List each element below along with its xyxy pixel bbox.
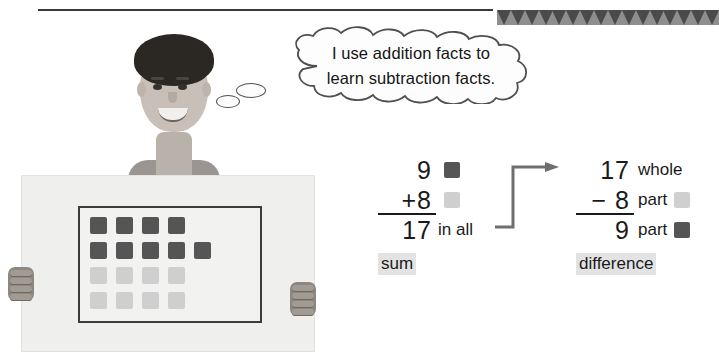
addition-total-word: in all [438,220,473,240]
addend1: 9 [370,156,438,185]
counter-dark [116,242,133,259]
counter-row [90,242,250,259]
counter-row [90,292,250,309]
student-photo [122,32,226,172]
part2-word: part [638,220,667,240]
part2-chip-icon [674,222,690,238]
difference-label: difference [576,253,656,275]
eye-right [178,84,187,90]
banner-pattern [497,10,719,25]
thought-tail-large [236,83,266,98]
decorative-banner [497,10,719,25]
part1-chip-icon [674,192,690,208]
counter-dark [90,242,107,259]
part1-with-operator: − 8 [568,186,638,215]
hand-right [290,282,316,316]
counter-row [90,217,250,234]
part1-word: part [638,190,667,210]
counter-row [90,267,250,284]
whole-word: whole [638,160,682,180]
worksheet-page: I use addition facts to learn subtractio… [0,0,719,356]
counter-light [142,292,159,309]
sum-label: sum [378,253,416,275]
counter-dark [168,217,185,234]
counter-light [90,267,107,284]
addend1-chip-icon [444,162,460,178]
connector-arrow-icon [495,157,561,235]
counter-frame [78,206,262,323]
counter-light [168,292,185,309]
eyebrow-right [176,77,189,80]
counter-light [168,267,185,284]
subtraction-row-part2: 9 part [568,215,718,245]
difference-label-wrap: difference [576,253,656,275]
ear-right [202,82,211,97]
counter-light [142,267,159,284]
counter-dark [194,242,211,259]
addend2: 8 [417,186,432,214]
whole-value: 17 [568,156,638,185]
counter-dark [90,217,107,234]
ear-left [137,82,146,97]
subtraction-row-part1: − 8 part [568,185,718,215]
counter-dark [168,242,185,259]
thought-bubble-text: I use addition facts to learn subtractio… [277,41,545,91]
sum-label-wrap: sum [378,253,416,275]
counter-light [116,292,133,309]
addition-total: 17 [370,216,438,245]
counter-light [90,292,107,309]
subtraction-operator: − [592,186,608,214]
counter-dark [142,242,159,259]
header-rule [38,9,493,11]
hand-left [8,267,34,301]
counter-dark [142,217,159,234]
eyebrow-left [151,77,164,80]
thought-tail-small [216,95,240,108]
poster-board [22,176,314,351]
addend2-with-operator: +8 [370,186,438,215]
speech-line-2: learn subtraction facts. [277,66,545,91]
thought-bubble: I use addition facts to learn subtractio… [277,26,545,104]
counter-dark [116,217,133,234]
nose [168,92,177,103]
subtraction-bar [576,213,634,215]
subtraction-problem: 17 whole − 8 part 9 part difference [568,155,718,245]
part1-value: 8 [615,186,630,214]
part2-value: 9 [568,216,638,245]
counter-grid [90,217,250,313]
addend2-chip-icon [444,192,460,208]
hair [134,34,214,84]
counter-light [116,267,133,284]
neck [156,132,192,176]
eye-left [153,84,162,90]
subtraction-row-whole: 17 whole [568,155,718,185]
math-region: 9 +8 17 in all sum 17 who [370,155,710,285]
addition-operator: + [401,186,417,214]
speech-line-1: I use addition facts to [277,41,545,66]
addition-bar [378,213,436,215]
